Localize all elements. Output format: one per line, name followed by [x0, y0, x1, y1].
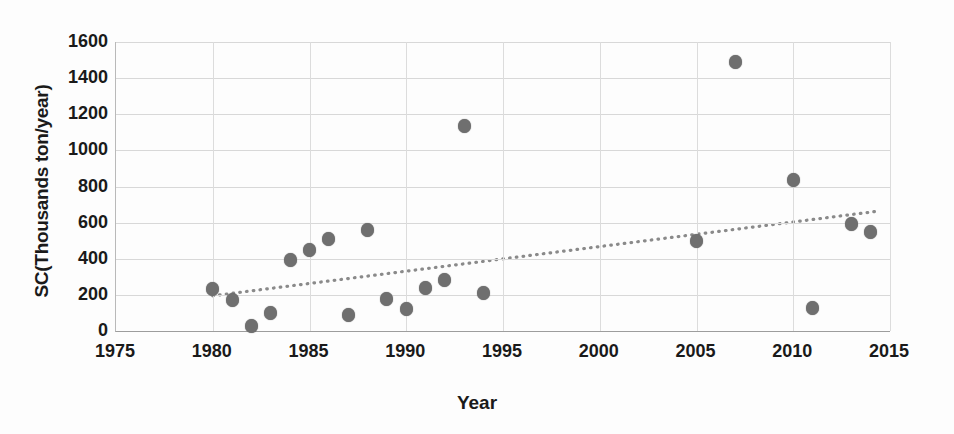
data-point: [303, 243, 316, 257]
data-point: [284, 253, 297, 267]
y-tick-label: 400: [48, 248, 108, 269]
gridline-vertical: [890, 42, 891, 331]
y-tick-label: 200: [48, 284, 108, 305]
data-point: [458, 119, 471, 133]
data-point: [322, 232, 335, 246]
data-point: [264, 306, 277, 320]
gridline-vertical: [697, 42, 698, 331]
data-point: [400, 302, 413, 316]
x-tick-label: 2010: [757, 341, 827, 362]
gridline-vertical: [310, 42, 311, 331]
x-tick-label: 2015: [854, 341, 924, 362]
gridline-vertical: [406, 42, 407, 331]
x-tick-label: 1975: [80, 341, 150, 362]
y-axis-tick-labels: 02004006008001000120014001600: [40, 0, 108, 434]
x-tick-label: 1990: [370, 341, 440, 362]
plot-area: [115, 42, 890, 332]
data-point: [845, 217, 858, 231]
data-point: [806, 301, 819, 315]
data-point: [864, 225, 877, 239]
y-tick-label: 1200: [48, 103, 108, 124]
data-point: [226, 293, 239, 307]
data-point: [342, 308, 355, 322]
x-tick-label: 2005: [661, 341, 731, 362]
x-tick-label: 2000: [564, 341, 634, 362]
data-point: [787, 173, 800, 187]
data-point: [245, 319, 258, 333]
x-tick-label: 1980: [177, 341, 247, 362]
y-tick-label: 1000: [48, 139, 108, 160]
x-tick-label: 1985: [274, 341, 344, 362]
y-tick-label: 0: [48, 320, 108, 341]
data-point: [438, 273, 451, 287]
gridline-vertical: [503, 42, 504, 331]
data-point: [729, 55, 742, 69]
y-tick-label: 1600: [48, 31, 108, 52]
y-tick-label: 600: [48, 212, 108, 233]
x-tick-label: 1995: [467, 341, 537, 362]
gridline-vertical: [600, 42, 601, 331]
data-point: [690, 234, 703, 248]
data-point: [477, 286, 490, 300]
scatter-chart-figure: SC(Thousands ton/year) 02004006008001000…: [0, 0, 954, 434]
data-point: [419, 281, 432, 295]
data-point: [361, 223, 374, 237]
data-point: [380, 292, 393, 306]
x-axis-title: Year: [0, 392, 954, 414]
y-tick-label: 1400: [48, 67, 108, 88]
y-tick-label: 800: [48, 176, 108, 197]
